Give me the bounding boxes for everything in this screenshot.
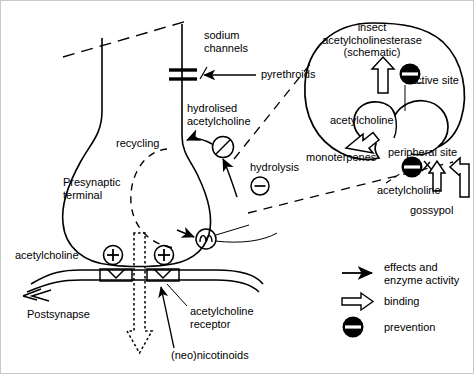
label-neonicotinoids: (neo)nicotinoids <box>171 349 249 362</box>
axon-cut-dashes <box>63 21 187 57</box>
label-insect-acetylcholinesterase: insect acetylcholinesterase (schematic) <box>307 21 437 59</box>
postsynapse-direction-arrows <box>23 289 51 301</box>
receptor-leader-line <box>167 284 187 306</box>
legend-hollow-arrow-icon <box>342 293 373 310</box>
hydrolised-acetylcholine-icon <box>213 137 234 158</box>
acetylcholine-plus-icon-right <box>155 246 174 265</box>
active-site-binding-arrow-icon <box>372 57 394 93</box>
legend-prevention-icon <box>343 317 364 338</box>
acetylcholine-plus-icon-left <box>104 246 123 265</box>
label-gossypol: gossypol <box>410 204 453 217</box>
label-acetylcholine-receptor: acetylcholine receptor <box>190 305 254 330</box>
legend-item-binding-label: binding <box>384 295 419 308</box>
label-hydrolised-acetylcholine: hydrolised acetylcholine <box>187 102 251 127</box>
label-pyrethroids: pyrethroids <box>261 68 315 81</box>
hydrolysed-uptake-arrow <box>187 138 212 144</box>
active-site-leader <box>405 83 423 111</box>
label-acetylcholine-enzyme: acetylcholine <box>330 114 394 127</box>
hydrolysis-arrow <box>223 159 237 197</box>
label-recycling: recycling <box>116 137 159 150</box>
label-hydrolysis: hydrolysis <box>250 161 299 174</box>
label-sodium-channels: sodium channels <box>204 29 248 54</box>
label-presynaptic-terminal: Presynaptic terminal <box>63 176 120 201</box>
legend-item-effects-label: effects and enzyme activity <box>384 261 459 286</box>
signal-transmission-arrow <box>127 233 152 353</box>
label-postsynapse: Postsynapse <box>27 308 90 321</box>
diagram-canvas: sodium channels pyrethroids hydrolised a… <box>0 0 474 374</box>
label-acetylcholine-presynaptic: acetylcholine <box>15 249 79 262</box>
vesicle-release-arrow <box>177 230 194 237</box>
label-monoterpenes: monoterpenes <box>306 151 376 164</box>
label-active-site: active site <box>410 74 459 87</box>
peripheral-site-prevention-icon <box>402 157 423 178</box>
gossypol-binding-arrow-icon <box>450 158 469 197</box>
sodium-channel-tick <box>200 67 207 79</box>
label-acetylcholine-peripheral: acetylcholine <box>377 184 441 197</box>
legend-item-prevention-label: prevention <box>384 321 435 334</box>
vesicle-leader-lines <box>215 225 277 242</box>
vesicle-icon <box>196 229 216 249</box>
hydrolysis-prevention-icon <box>251 177 269 195</box>
neonicotinoids-arrow <box>161 287 174 348</box>
label-peripheral-site: peripheral site <box>388 146 457 159</box>
monoterpenes-binding-arrow-icon <box>346 133 379 154</box>
sodium-channel-icon <box>169 70 197 79</box>
recycling-loop <box>131 149 177 248</box>
